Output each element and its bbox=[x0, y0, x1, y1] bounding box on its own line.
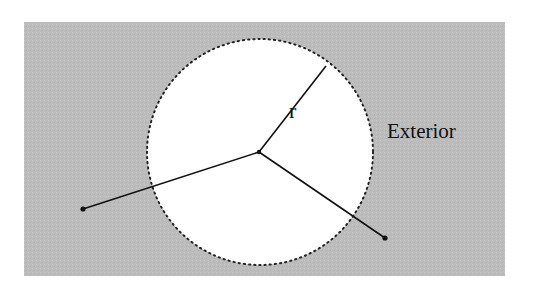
exterior-point-left bbox=[80, 206, 85, 211]
exterior-point-right bbox=[382, 235, 387, 240]
exterior-label: Exterior bbox=[387, 119, 456, 143]
diagram-figure: r Exterior bbox=[0, 0, 555, 289]
radius-label: r bbox=[289, 98, 297, 123]
center-point bbox=[257, 150, 261, 154]
